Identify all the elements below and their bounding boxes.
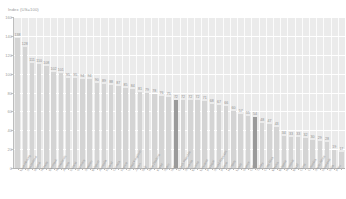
bar-value-label: 57 xyxy=(239,109,243,113)
bar-group[interactable]: 110 xyxy=(37,17,41,168)
x-tick-mark xyxy=(147,168,148,170)
bar-group[interactable]: 55 xyxy=(246,17,250,168)
bar-group[interactable]: 85 xyxy=(123,17,127,168)
bar[interactable] xyxy=(95,83,99,168)
bar-value-label: 55 xyxy=(246,111,250,115)
bar-group[interactable]: 47 xyxy=(267,17,271,168)
bar[interactable] xyxy=(44,66,48,168)
bar-group[interactable]: 89 xyxy=(102,17,106,168)
bar-group[interactable]: 71 xyxy=(202,17,206,168)
bar[interactable] xyxy=(87,79,91,168)
bar-value-label: 28 xyxy=(325,137,329,141)
bar[interactable] xyxy=(145,93,149,168)
bar-group[interactable]: 88 xyxy=(109,17,113,168)
bar-group[interactable]: 81 xyxy=(138,17,142,168)
bar-value-label: 29 xyxy=(318,136,322,140)
bar-group[interactable]: 32 xyxy=(303,17,307,168)
bar[interactable] xyxy=(59,73,63,168)
bar-group[interactable]: 102 xyxy=(51,17,55,168)
bar-group[interactable]: 94 xyxy=(87,17,91,168)
bar-group[interactable]: 79 xyxy=(145,17,149,168)
bar-group[interactable]: 43 xyxy=(274,17,278,168)
bar-group[interactable]: 72 xyxy=(181,17,185,168)
bar-group[interactable]: 28 xyxy=(325,17,329,168)
bar[interactable] xyxy=(73,78,77,168)
bar[interactable] xyxy=(253,117,257,168)
bar[interactable] xyxy=(195,100,199,168)
bar-group[interactable]: 48 xyxy=(260,17,264,168)
bar-group[interactable]: 90 xyxy=(95,17,99,168)
bar[interactable] xyxy=(30,63,34,168)
bar-group[interactable]: 67 xyxy=(217,17,221,168)
bar-group[interactable]: 29 xyxy=(318,17,322,168)
bar-value-label: 34 xyxy=(282,131,286,135)
bar-value-label: 72 xyxy=(174,95,178,99)
bar-group[interactable]: 19 xyxy=(332,17,336,168)
bar-group[interactable]: 72 xyxy=(188,17,192,168)
bar-value-label: 60 xyxy=(231,106,235,110)
bar[interactable] xyxy=(102,84,106,168)
x-tick-mark xyxy=(269,168,270,170)
bar-group[interactable]: 60 xyxy=(231,17,235,168)
x-tick-mark xyxy=(118,168,119,170)
bar-group[interactable]: 95 xyxy=(66,17,70,168)
bar-group[interactable]: 34 xyxy=(282,17,286,168)
bar-group[interactable]: 17 xyxy=(339,17,343,168)
bar[interactable] xyxy=(116,86,120,168)
bar-group[interactable]: 72 xyxy=(174,17,178,168)
bar[interactable] xyxy=(166,97,170,168)
bar-group[interactable]: 76 xyxy=(159,17,163,168)
bar[interactable] xyxy=(23,47,27,168)
bar-value-label: 76 xyxy=(159,91,163,95)
x-tick-mark xyxy=(262,168,263,170)
bar-series: 1381281111101081021019595949490898887858… xyxy=(14,17,345,168)
bar-group[interactable]: 94 xyxy=(80,17,84,168)
bar-group[interactable]: 33 xyxy=(289,17,293,168)
bar-group[interactable]: 111 xyxy=(30,17,34,168)
bar[interactable] xyxy=(109,85,113,168)
bar-value-label: 17 xyxy=(339,147,343,151)
x-tick-mark xyxy=(32,168,33,170)
y-tick-mark xyxy=(11,111,13,112)
x-tick-mark xyxy=(255,168,256,170)
bar[interactable] xyxy=(51,72,55,168)
bar[interactable] xyxy=(174,100,178,168)
bar-value-label: 78 xyxy=(152,89,156,93)
bar-value-label: 81 xyxy=(138,87,142,91)
y-tick-mark xyxy=(11,36,13,37)
bar[interactable] xyxy=(80,79,84,168)
bar-group[interactable]: 95 xyxy=(73,17,77,168)
bar-group[interactable]: 84 xyxy=(130,17,134,168)
bar[interactable] xyxy=(15,38,19,168)
bar-group[interactable]: 30 xyxy=(310,17,314,168)
x-tick-mark xyxy=(18,168,19,170)
bar-group[interactable]: 108 xyxy=(44,17,48,168)
bar[interactable] xyxy=(238,114,242,168)
x-tick-mark xyxy=(39,168,40,170)
bar-group[interactable]: 68 xyxy=(210,17,214,168)
bar[interactable] xyxy=(224,106,228,168)
x-tick-mark xyxy=(75,168,76,170)
bar-group[interactable]: 57 xyxy=(238,17,242,168)
bar[interactable] xyxy=(123,88,127,168)
bar-group[interactable]: 128 xyxy=(23,17,27,168)
bar-group[interactable]: 75 xyxy=(166,17,170,168)
bar[interactable] xyxy=(37,64,41,168)
bar-group[interactable]: 138 xyxy=(15,17,19,168)
bar-group[interactable]: 87 xyxy=(116,17,120,168)
bar-group[interactable]: 33 xyxy=(296,17,300,168)
x-tick-mark xyxy=(334,168,335,170)
x-tick-mark xyxy=(298,168,299,170)
bar-value-label: 48 xyxy=(260,118,264,122)
bar-group[interactable]: 54 xyxy=(253,17,257,168)
x-tick-mark xyxy=(313,168,314,170)
bar-group[interactable]: 66 xyxy=(224,17,228,168)
bar-group[interactable]: 101 xyxy=(59,17,63,168)
x-tick-mark xyxy=(82,168,83,170)
bar[interactable] xyxy=(66,78,70,168)
y-tick-mark xyxy=(11,130,13,131)
x-tick-mark xyxy=(169,168,170,170)
bar-group[interactable]: 72 xyxy=(195,17,199,168)
bar-group[interactable]: 78 xyxy=(152,17,156,168)
x-tick-mark xyxy=(305,168,306,170)
